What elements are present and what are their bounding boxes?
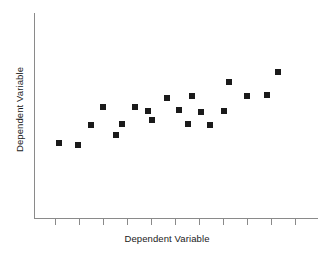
data-point <box>164 95 170 101</box>
data-point <box>275 69 281 75</box>
x-axis-tick <box>295 219 296 225</box>
scatter-plot-figure: Dependent Variable Dependent Variable <box>0 0 334 260</box>
data-point <box>100 104 106 110</box>
data-point <box>56 140 62 146</box>
data-point <box>226 79 232 85</box>
data-point <box>132 104 138 110</box>
data-point <box>145 108 151 114</box>
x-axis-tick <box>199 219 200 225</box>
data-point <box>149 117 155 123</box>
data-point <box>207 122 213 128</box>
plot-area <box>0 0 334 260</box>
x-axis-tick <box>271 219 272 225</box>
x-axis-tick <box>151 219 152 225</box>
x-axis-tick <box>103 219 104 225</box>
x-axis-tick <box>175 219 176 225</box>
data-point <box>244 93 250 99</box>
x-axis-tick <box>79 219 80 225</box>
data-point <box>119 121 125 127</box>
x-axis-label: Dependent Variable <box>0 233 334 244</box>
data-point <box>75 142 81 148</box>
data-point <box>264 92 270 98</box>
data-point <box>185 121 191 127</box>
data-point <box>88 122 94 128</box>
data-point <box>189 93 195 99</box>
data-point <box>198 109 204 115</box>
data-point <box>176 107 182 113</box>
y-axis-label: Dependent Variable <box>14 45 25 175</box>
data-point <box>221 108 227 114</box>
x-axis-tick <box>247 219 248 225</box>
x-axis-tick <box>127 219 128 225</box>
data-point <box>113 132 119 138</box>
x-axis-tick <box>223 219 224 225</box>
x-axis-tick <box>55 219 56 225</box>
y-axis-line <box>34 13 35 219</box>
x-axis-line <box>34 218 318 219</box>
